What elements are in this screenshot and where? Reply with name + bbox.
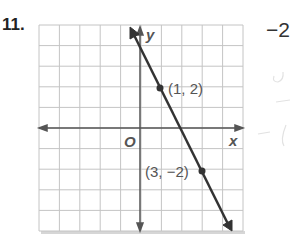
y-axis-label: y [145,26,155,43]
point-3-neg2 [199,168,206,175]
y-axis-down-arrow-icon [137,223,143,231]
handwritten-marks [258,72,290,146]
y-axis [137,27,143,231]
x-axis-right-arrow-icon [235,125,243,131]
graphed-line [130,27,232,231]
point-1-2 [157,85,164,92]
origin-label: O [124,133,136,150]
x-axis-label: x [228,132,238,149]
point-label-3-neg2: (3, −2) [145,163,189,180]
x-axis-left-arrow-icon [39,125,47,131]
coordinate-graph: y x O (1, 2) (3, −2) [0,0,305,243]
point-label-1-2: (1, 2) [168,80,203,97]
